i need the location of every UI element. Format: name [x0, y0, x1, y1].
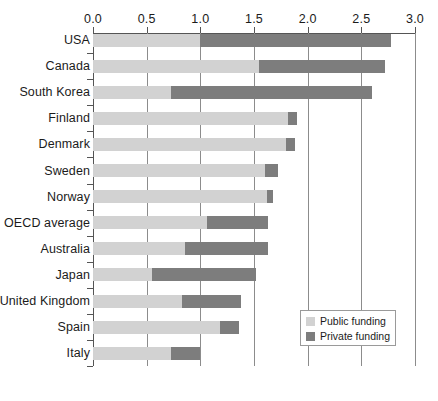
y-tick-mark: [87, 314, 93, 315]
y-category-label: USA: [64, 33, 90, 47]
bar-segment-public: [93, 112, 288, 125]
y-tick-mark: [87, 262, 93, 263]
bar-segment-private: [259, 60, 385, 73]
bar-segment-private: [171, 86, 372, 99]
y-tick-mark: [87, 366, 93, 367]
y-tick-mark: [87, 288, 93, 289]
bar-segment-public: [93, 34, 200, 47]
legend-item-private: Private funding: [306, 330, 390, 343]
bar-segment-public: [93, 321, 220, 334]
y-tick-mark: [87, 236, 93, 237]
bar-segment-public: [93, 60, 259, 73]
bar-segment-private: [286, 138, 295, 151]
bar-segment-private: [182, 295, 241, 308]
y-tick-mark: [87, 184, 93, 185]
legend-item-public: Public funding: [306, 315, 390, 328]
x-tick-label: 1.5: [245, 12, 263, 26]
y-category-label: Japan: [55, 268, 90, 282]
legend-swatch-public-icon: [306, 317, 315, 326]
y-category-label: South Korea: [19, 85, 90, 99]
legend-label-private: Private funding: [320, 331, 390, 342]
bar-segment-private: [185, 242, 268, 255]
stacked-bar-chart: 0.00.51.01.52.02.53.0 USACanadaSouth Kor…: [0, 0, 438, 401]
y-category-label: Finland: [48, 111, 90, 125]
bar-segment-private: [267, 190, 273, 203]
x-tick-label: 0.5: [138, 12, 156, 26]
y-category-label: Norway: [47, 190, 90, 204]
y-tick-mark: [87, 340, 93, 341]
y-category-label: Italy: [67, 346, 90, 360]
y-tick-mark: [87, 210, 93, 211]
y-tick-mark: [87, 157, 93, 158]
legend-label-public: Public funding: [320, 316, 386, 327]
bar-segment-public: [93, 295, 182, 308]
bar-segment-private: [152, 268, 256, 281]
x-tick-label: 2.5: [352, 12, 370, 26]
y-category-label: OECD average: [4, 216, 90, 230]
y-category-label: Sweden: [44, 164, 90, 178]
y-tick-mark: [87, 105, 93, 106]
bar-segment-private: [265, 164, 278, 177]
bar-segment-private: [220, 321, 239, 334]
bar-segment-private: [171, 347, 200, 360]
bar-segment-private: [207, 216, 268, 229]
x-tick-label: 0.0: [84, 12, 102, 26]
bar-segment-public: [93, 190, 267, 203]
y-category-label: Denmark: [39, 137, 90, 151]
y-category-label: United Kingdom: [0, 294, 90, 308]
y-category-label: Australia: [40, 242, 90, 256]
legend-swatch-private-icon: [306, 332, 315, 341]
bar-segment-public: [93, 164, 265, 177]
y-category-label: Spain: [58, 320, 90, 334]
bar-segment-private: [200, 34, 391, 47]
bar-segment-public: [93, 242, 185, 255]
bar-segment-private: [288, 112, 297, 125]
bar-segment-public: [93, 138, 286, 151]
x-tick-label: 2.0: [299, 12, 317, 26]
y-tick-mark: [87, 79, 93, 80]
gridline: [415, 33, 416, 366]
bar-segment-public: [93, 347, 171, 360]
bar-segment-public: [93, 268, 152, 281]
y-tick-mark: [87, 131, 93, 132]
bar-segment-public: [93, 216, 207, 229]
y-tick-mark: [87, 53, 93, 54]
bar-segment-public: [93, 86, 171, 99]
x-tick-label: 3.0: [406, 12, 424, 26]
legend: Public funding Private funding: [300, 310, 396, 346]
y-category-label: Canada: [46, 59, 90, 73]
x-tick-label: 1.0: [191, 12, 209, 26]
